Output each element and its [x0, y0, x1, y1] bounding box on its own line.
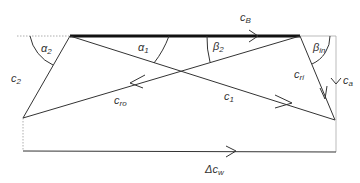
alpha1-arc [154, 36, 169, 63]
label-c1: c1 [224, 90, 234, 104]
cro-vector [23, 36, 300, 118]
label-cri: cri [294, 68, 304, 82]
label-beta2: β2 [212, 40, 224, 54]
label-beta-in: βin [312, 41, 326, 55]
label-c2: c2 [11, 72, 22, 86]
velocity-triangle-diagram: cB α2 α1 β2 βin c2 cri ca cro c1 Δcw [0, 0, 360, 183]
label-ca: ca [343, 74, 354, 88]
label-alpha2: α2 [41, 42, 52, 56]
delta-cw-vector [23, 151, 336, 152]
label-delta-cw: Δcw [204, 163, 225, 177]
label-alpha1: α1 [138, 41, 149, 55]
label-cro: cro [114, 94, 127, 108]
beta2-arc [207, 36, 210, 62]
label-cb: cB [240, 11, 252, 25]
